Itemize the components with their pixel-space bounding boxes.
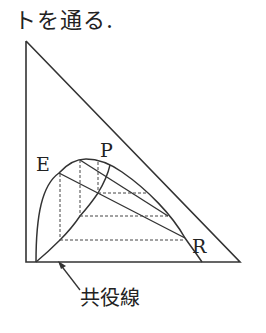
label-conjugate-line: 共役線	[80, 286, 140, 310]
arrow-line	[60, 264, 80, 290]
ternary-phase-diagram: E P R 共役線	[0, 0, 266, 333]
tie-line-1	[59, 173, 185, 238]
tie-line-2	[80, 160, 168, 216]
label-p: P	[100, 139, 113, 161]
label-e: E	[36, 153, 50, 175]
triangle-frame	[26, 41, 240, 262]
label-r: R	[192, 235, 207, 257]
